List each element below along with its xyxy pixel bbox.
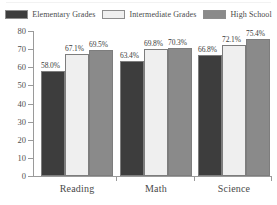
bar-science-elementary-grades[interactable] <box>198 55 222 176</box>
bar-value-label: 70.3% <box>168 39 187 47</box>
x-axis-category-label: Math <box>116 183 196 194</box>
bar-math-elementary-grades[interactable] <box>120 61 144 176</box>
y-axis-tick <box>28 49 33 50</box>
bar-value-label: 72.1% <box>222 36 241 44</box>
y-axis-tick-label: 20 <box>4 136 26 145</box>
bar-value-label: 63.4% <box>120 52 139 60</box>
x-axis-line <box>33 176 272 177</box>
y-axis-tick-label: 70 <box>4 45 26 54</box>
bar-science-intermediate-grades[interactable] <box>222 45 246 176</box>
y-axis-tick <box>28 31 33 32</box>
y-axis-tick-label: 80 <box>4 27 26 36</box>
y-axis-tick-label: 60 <box>4 63 26 72</box>
y-axis-tick <box>28 104 33 105</box>
y-axis-tick <box>28 67 33 68</box>
bar-reading-elementary-grades[interactable] <box>41 71 65 176</box>
bar-value-label: 67.1% <box>65 45 84 53</box>
y-axis-tick-label: 0 <box>4 172 26 181</box>
y-axis-line <box>33 31 34 177</box>
y-axis-tick <box>28 176 33 177</box>
bar-value-label: 58.0% <box>41 62 60 70</box>
bar-chart: Elementary Grades Intermediate Grades Hi… <box>0 0 277 205</box>
bar-value-label: 66.8% <box>198 46 217 54</box>
bar-value-label: 75.4% <box>246 30 265 38</box>
x-axis-tick <box>116 177 117 181</box>
bar-science-high-school[interactable] <box>246 39 270 176</box>
y-axis-tick-label: 30 <box>4 118 26 127</box>
x-axis-category-label: Reading <box>37 183 117 194</box>
y-axis-tick <box>28 140 33 141</box>
bar-reading-intermediate-grades[interactable] <box>65 54 89 176</box>
x-axis-tick <box>271 177 272 181</box>
x-axis-category-label: Science <box>194 183 274 194</box>
y-axis-tick <box>28 122 33 123</box>
y-axis-tick-label: 10 <box>4 154 26 163</box>
plot-area: 80 70 60 50 40 30 20 10 0 58.0% 67.1% 69… <box>0 0 277 205</box>
y-axis-tick <box>28 85 33 86</box>
y-axis-tick <box>28 158 33 159</box>
bar-value-label: 69.8% <box>144 40 163 48</box>
bar-value-label: 69.5% <box>89 41 108 49</box>
y-axis-tick-label: 40 <box>4 100 26 109</box>
bar-math-high-school[interactable] <box>168 48 192 176</box>
bar-reading-high-school[interactable] <box>89 50 113 176</box>
bar-math-intermediate-grades[interactable] <box>144 49 168 176</box>
x-axis-tick <box>194 177 195 181</box>
y-axis-tick-label: 50 <box>4 81 26 90</box>
